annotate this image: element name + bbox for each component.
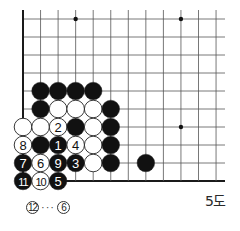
black-stone: 3 [67,154,85,172]
move-number: 3 [72,156,79,171]
white-stone [84,154,102,172]
black-stone: 5 [49,172,67,190]
move-number: 10 [35,176,46,188]
black-stone [102,118,120,136]
black-stone: 11 [14,172,32,190]
star-point-icon [73,17,77,21]
move-number: 2 [54,120,61,135]
move-location-marker: 6 [57,201,70,214]
white-stone [32,118,50,136]
black-stone [102,154,120,172]
black-stone [102,100,120,118]
black-stone [49,82,67,100]
move-number: 4 [72,138,79,153]
move-number: 1 [54,138,61,153]
move-number: 7 [19,156,26,171]
black-stone [67,118,85,136]
white-stone: 8 [14,136,32,154]
white-stone [49,100,67,118]
move-note: 12 ··· 6 [26,199,70,215]
black-stone [67,82,85,100]
move-number: 5 [54,174,61,189]
move-number-marker: 12 [26,201,39,214]
stones-layer: 2814769311105 [14,82,154,190]
note-separator: ··· [41,201,55,213]
black-stone [102,136,120,154]
white-stone [84,100,102,118]
move-number: 8 [19,138,26,153]
move-number: 11 [18,176,28,188]
star-point-icon [179,125,183,129]
black-stone: 7 [14,154,32,172]
white-stone: 4 [67,136,85,154]
white-stone [14,118,32,136]
go-board-diagram: 2814769311105 [0,0,240,231]
black-stone: 9 [49,154,67,172]
black-stone [32,100,50,118]
diagram-caption: 5도 [205,190,226,210]
star-point-icon [179,17,183,21]
black-stone [32,82,50,100]
black-stone [32,136,50,154]
white-stone: 2 [49,118,67,136]
black-stone [137,154,155,172]
move-number: 6 [37,156,44,171]
white-stone: 10 [32,172,50,190]
white-stone: 6 [32,154,50,172]
white-stone [84,118,102,136]
white-stone [84,136,102,154]
move-number: 9 [54,156,61,171]
black-stone [84,82,102,100]
white-stone [67,100,85,118]
black-stone: 1 [49,136,67,154]
